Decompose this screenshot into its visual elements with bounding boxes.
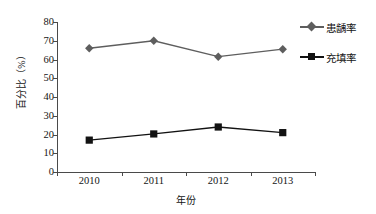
chart-legend: 患龋率 充填率 xyxy=(300,20,376,80)
y-tick-label-70: 70 xyxy=(34,36,54,46)
y-tick-label-80: 80 xyxy=(34,17,54,27)
y-tick-mark-40 xyxy=(53,97,57,98)
y-tick-mark-10 xyxy=(53,153,57,154)
y-tick-label-60: 60 xyxy=(34,55,54,65)
legend-item-1[interactable]: 充填率 xyxy=(300,50,376,64)
series-1 xyxy=(86,123,287,143)
data-point-0-0[interactable] xyxy=(85,44,93,52)
x-tick-label-2010: 2010 xyxy=(66,175,112,186)
line-chart: 百分比（%） 01020304050607080 201020112012201… xyxy=(0,0,376,214)
x-tick-label-2012: 2012 xyxy=(195,175,241,186)
x-tick-label-2011: 2011 xyxy=(131,175,177,186)
y-tick-mark-50 xyxy=(53,78,57,79)
x-axis-tick-labels: 2010201120122013 xyxy=(57,175,315,191)
data-series-layer xyxy=(57,22,315,172)
data-point-1-2[interactable] xyxy=(215,123,222,130)
y-tick-mark-60 xyxy=(53,60,57,61)
y-tick-mark-80 xyxy=(53,22,57,23)
data-point-1-0[interactable] xyxy=(86,137,93,144)
y-tick-label-50: 50 xyxy=(34,73,54,83)
y-tick-mark-70 xyxy=(53,41,57,42)
series-line-1 xyxy=(89,127,283,140)
legend-diamond-marker-icon xyxy=(300,21,324,33)
legend-square-marker-icon xyxy=(300,51,324,63)
data-point-0-2[interactable] xyxy=(214,52,222,60)
y-tick-label-40: 40 xyxy=(34,92,54,102)
y-axis-tick-labels: 01020304050607080 xyxy=(30,0,54,214)
series-line-0 xyxy=(89,41,283,57)
plot-area xyxy=(57,22,315,172)
y-tick-label-0: 0 xyxy=(34,167,54,177)
series-0 xyxy=(85,37,287,61)
y-tick-label-30: 30 xyxy=(34,111,54,121)
x-tick-label-2013: 2013 xyxy=(260,175,306,186)
x-tick-mark-4 xyxy=(315,172,316,176)
x-axis-title: 年份 xyxy=(57,192,315,207)
data-point-1-1[interactable] xyxy=(150,130,157,137)
legend-label-0: 患龋率 xyxy=(324,20,356,35)
y-tick-mark-30 xyxy=(53,116,57,117)
legend-item-0[interactable]: 患龋率 xyxy=(300,20,376,34)
data-point-0-1[interactable] xyxy=(150,37,158,45)
data-point-0-3[interactable] xyxy=(279,45,287,53)
legend-label-1: 充填率 xyxy=(324,50,356,65)
y-tick-label-20: 20 xyxy=(34,130,54,140)
y-tick-label-10: 10 xyxy=(34,148,54,158)
data-point-1-3[interactable] xyxy=(279,129,286,136)
y-axis-title: 百分比（%） xyxy=(13,30,28,130)
y-tick-mark-20 xyxy=(53,135,57,136)
